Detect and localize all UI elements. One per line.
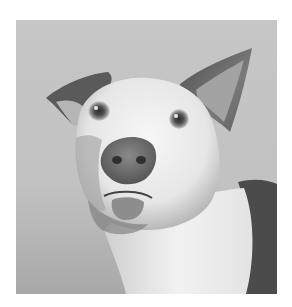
dog-illustration — [16, 20, 277, 294]
right-eye — [169, 109, 189, 129]
left-eye-highlight — [94, 106, 98, 110]
right-nostril — [136, 156, 146, 164]
left-nostril — [112, 156, 122, 164]
right-eye-highlight — [174, 114, 178, 118]
left-eye — [88, 101, 110, 121]
dog-photo — [16, 20, 277, 294]
